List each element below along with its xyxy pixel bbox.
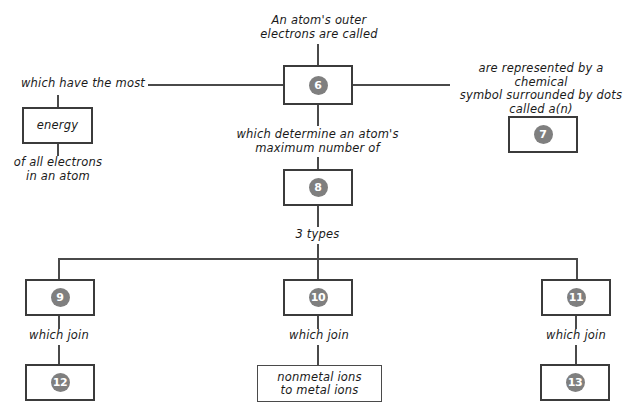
answer-box-11[interactable]: 11 bbox=[541, 279, 611, 316]
blank-number-11: 11 bbox=[567, 288, 586, 307]
connector-box6-to-middle-label bbox=[317, 104, 319, 126]
join-label-middle: which join bbox=[280, 329, 358, 343]
connector-bar-to-box11 bbox=[576, 258, 578, 280]
join-label-left: which join bbox=[20, 329, 98, 343]
blank-number-6: 6 bbox=[309, 76, 328, 95]
answer-box-13[interactable]: 13 bbox=[540, 364, 610, 401]
blank-number-9: 9 bbox=[51, 288, 70, 307]
types-label: 3 types bbox=[280, 228, 355, 242]
left-footer-label: of all electrons in an atom bbox=[2, 156, 114, 183]
nonmetal-ions-box[interactable]: nonmetal ions to metal ions bbox=[257, 365, 382, 402]
title-label: An atom's outer electrons are called bbox=[243, 14, 395, 41]
connector-title-to-box6 bbox=[317, 44, 319, 66]
answer-box-9[interactable]: 9 bbox=[25, 279, 95, 316]
energy-box-label: energy bbox=[37, 119, 78, 132]
connector-bar-to-box10 bbox=[317, 258, 319, 280]
left-branch-label: which have the most bbox=[18, 77, 148, 91]
connector-box8-to-types-label bbox=[317, 205, 319, 227]
blank-number-8: 8 bbox=[309, 178, 328, 197]
answer-box-10[interactable]: 10 bbox=[283, 279, 353, 316]
connector-box6-to-left bbox=[148, 84, 285, 86]
connector-types-label-to-bar bbox=[317, 244, 319, 259]
concept-map-diagram: An atom's outer electrons are called 6 w… bbox=[0, 0, 638, 416]
middle-label: which determine an atom's maximum number… bbox=[230, 128, 405, 155]
answer-box-6[interactable]: 6 bbox=[283, 65, 353, 105]
blank-number-7: 7 bbox=[534, 125, 553, 144]
connector-bar-to-box9 bbox=[58, 258, 60, 280]
blank-number-13: 13 bbox=[566, 373, 585, 392]
blank-number-12: 12 bbox=[51, 373, 70, 392]
energy-box[interactable]: energy bbox=[22, 107, 93, 144]
answer-box-8[interactable]: 8 bbox=[283, 169, 353, 206]
join-label-right: which join bbox=[537, 329, 615, 343]
connector-join-label-to-box12 bbox=[58, 345, 60, 365]
answer-box-7[interactable]: 7 bbox=[508, 116, 578, 153]
right-branch-label: are represented by a chemical symbol sur… bbox=[450, 62, 632, 116]
connector-join-label-to-box13 bbox=[575, 345, 577, 365]
connector-join-label-to-nonmetal-box bbox=[317, 345, 319, 366]
blank-number-10: 10 bbox=[309, 288, 328, 307]
answer-box-12[interactable]: 12 bbox=[25, 364, 95, 401]
nonmetal-ions-box-label: nonmetal ions to metal ions bbox=[277, 371, 361, 397]
